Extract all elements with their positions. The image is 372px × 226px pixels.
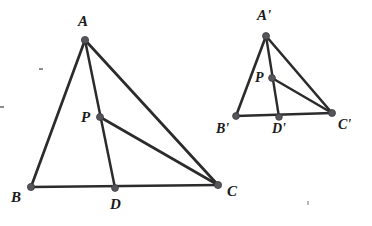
label-vertex-b: B (11, 190, 21, 205)
right-triangle-group (233, 33, 336, 121)
vertex-d (112, 185, 119, 192)
vertex-aprime (263, 33, 270, 40)
label-vertex-aprime: A' (257, 8, 271, 23)
label-vertex-bprime: B' (216, 122, 229, 136)
geometry-canvas (0, 0, 372, 226)
vertex-b (27, 183, 34, 190)
scan-speck (0, 106, 4, 108)
vertex-bprime (233, 113, 240, 120)
segment-b-c (31, 185, 218, 187)
vertex-cprime (329, 110, 336, 117)
vertex-a (81, 36, 88, 43)
label-vertex-a: A (78, 14, 88, 29)
segment-pprime-cprime (272, 78, 332, 113)
vertex-dprime (276, 114, 283, 121)
label-vertex-cprime: C' (338, 118, 351, 132)
label-vertex-p: P (81, 110, 90, 125)
segment-bprime-cprime (236, 113, 332, 116)
segment-p-c (100, 117, 218, 185)
scan-speck (307, 201, 309, 205)
vertex-p (97, 114, 104, 121)
label-vertex-dprime: D' (272, 122, 286, 136)
label-vertex-d: D (110, 197, 121, 212)
geometry-figure: A B C D P A' B' C' D' P (0, 0, 372, 226)
scan-speck (39, 68, 43, 70)
vertex-c (214, 181, 221, 188)
segment-a-b (31, 40, 85, 187)
label-vertex-c: C (227, 184, 237, 199)
segment-a-c (85, 40, 218, 185)
label-vertex-pprime: P (255, 71, 264, 85)
vertex-pprime (269, 75, 276, 82)
left-triangle-group (27, 36, 221, 191)
